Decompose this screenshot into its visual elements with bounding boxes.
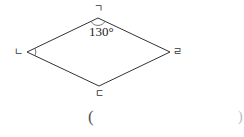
angle-value-label: 130°	[89, 25, 114, 38]
answer-open-paren: (	[88, 108, 94, 125]
vertex-label-right: ㄹ	[173, 47, 182, 57]
answer-blank[interactable]	[96, 108, 236, 128]
vertex-label-top: ㄱ	[94, 4, 103, 14]
vertex-label-bottom: ㄷ	[95, 89, 104, 99]
left-angle-arc-icon	[35, 48, 36, 56]
answer-close-paren: )	[238, 110, 243, 124]
vertex-label-left: ㄴ	[14, 47, 23, 57]
